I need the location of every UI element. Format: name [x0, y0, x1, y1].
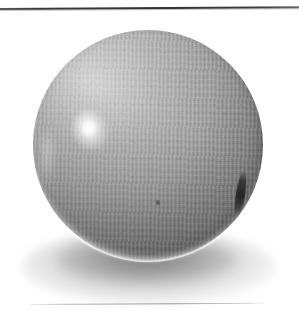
ball-terminator-shadow [33, 30, 263, 260]
left-sheen-streak [41, 126, 53, 190]
surface-blemish [156, 200, 160, 205]
specular-highlight-core [82, 120, 96, 137]
photograph-scene [0, 12, 299, 302]
ball-sphere-body [33, 30, 263, 260]
figure-page [0, 0, 299, 311]
bottom-horizontal-rule [30, 303, 266, 305]
ball-object [33, 30, 263, 260]
